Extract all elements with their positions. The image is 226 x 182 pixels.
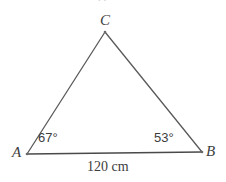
triangle-drawing <box>0 0 226 182</box>
angle-label-at-a: 67° <box>38 131 58 144</box>
geometry-figure: B A B C 67° 53° 120 cm <box>0 0 226 182</box>
angle-label-at-b: 53° <box>154 131 174 144</box>
vertex-b-point <box>201 151 204 154</box>
vertex-c-point <box>104 31 107 34</box>
vertex-label-b: B <box>206 144 215 159</box>
side-length-label-ab: 120 cm <box>87 160 129 174</box>
vertex-label-a: A <box>12 145 21 160</box>
vertex-label-c: C <box>100 13 110 28</box>
vertex-a-point <box>26 153 29 156</box>
side-ab-line <box>27 152 202 154</box>
